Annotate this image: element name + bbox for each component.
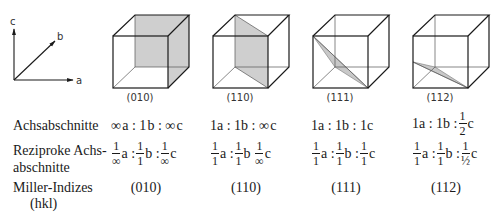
cube-110: (110) [213,15,289,103]
reciprocals-010: 1∞a : 11b : 1∞c [111,140,176,167]
cube-label-112: (112) [427,92,454,103]
cube-010: (010) [113,15,189,103]
b-axis-label: b [57,31,63,42]
row-label-reciprocals-1: Reziproke Achs- [13,143,107,159]
reciprocals-112: 11a : 11b : 1½c [412,140,477,167]
row-label-reciprocals-2: abschnitte [13,160,70,176]
axes-diagram [14,29,73,80]
cube-111: (111) [313,15,389,103]
miller-index-110: (110) [206,180,286,196]
crystal-figure: c b a (010) (110) [0,0,502,110]
plane-110 [235,15,268,88]
row-label-miller-1: Miller-Indizes [13,180,93,196]
b-axis-arrow [14,41,55,80]
cube-label-111: (111) [327,92,354,103]
intercepts-111: 1a : 1b : 1c [311,118,373,134]
c-axis-label: c [10,16,16,27]
row-label-miller-2: (hkl) [30,196,57,212]
miller-index-112: (112) [406,180,486,196]
a-axis-label: a [76,75,82,86]
intercepts-112: 1a : 1b : 12c [412,110,474,137]
cube-112: (112) [413,15,489,103]
reciprocals-111: 11a : 11b : 11c [311,140,375,167]
row-label-intercepts: Achsabschnitte [13,118,99,134]
reciprocals-110: 11a : 11b 1∞c [210,140,271,167]
cube-label-010: (010) [127,92,154,103]
cube-label-110: (110) [227,92,254,103]
miller-index-010: (010) [106,180,186,196]
intercepts-110: 1a : 1b : ∞ c [210,118,276,134]
intercepts-010: ∞ a : 1 b : ∞ c [111,118,183,134]
miller-index-111: (111) [306,180,386,196]
